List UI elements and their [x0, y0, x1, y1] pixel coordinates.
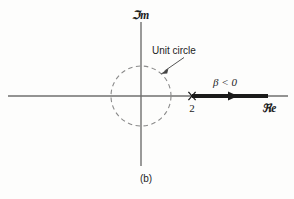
unit-circle-label: Unit circle [152, 45, 196, 56]
imaginary-axis-label: ℑm [132, 9, 150, 21]
branch-point-tick-label: 2 [189, 102, 195, 114]
complex-plane-diagram: ℑm ℜe Unit circle β < 0 2 (b) [0, 0, 294, 199]
branch-cut-arrowhead-icon [228, 92, 238, 101]
unit-circle-leader-line [165, 58, 185, 72]
beta-condition-label: β < 0 [212, 76, 237, 88]
figure-caption: (b) [140, 173, 152, 184]
complex-plane-figure: ℑm ℜe Unit circle β < 0 2 (b) [0, 0, 294, 199]
real-axis-label: ℜe [262, 102, 277, 114]
